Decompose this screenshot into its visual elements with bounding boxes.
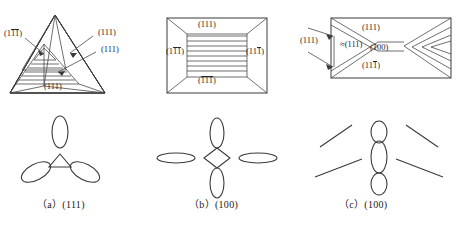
panel-b-diagram (155, 5, 305, 115)
caption-b: （b）(100) (189, 200, 238, 210)
pole-figure-c (300, 115, 459, 205)
panel-a-label-base-plane: (111) (44, 82, 62, 91)
panel-a-diagram (0, 0, 160, 110)
panel-b-label-bottom-plane: (111) (198, 76, 216, 85)
panel-b-label-left-plane: (111) (166, 47, 184, 56)
figure-crystal-morphologies: (111) (111) (111) (111) (111) (111) (111… (0, 0, 459, 227)
caption-a: （a）(111) (37, 200, 85, 210)
panel-c-label-center-plane: (100) (370, 43, 388, 52)
caption-c: （c）(100) (339, 200, 388, 210)
panel-c-label-approx-left-plane: ≈(111) (340, 40, 362, 49)
panel-c-label-bottom-plane: (111) (362, 61, 380, 70)
pole-figure-b (150, 115, 310, 205)
panel-a-label-left-plane: (111) (4, 29, 22, 38)
panel-b-label-right-plane: (111) (246, 47, 264, 56)
panel-c-label-outer-left-plane: (111) (300, 36, 318, 45)
panel-a-label-right-upper-plane: (111) (98, 28, 116, 37)
panel-b-label-top-plane: (111) (198, 20, 216, 29)
panel-a-label-right-lower-plane: (111) (101, 45, 119, 54)
pole-figure-a (0, 115, 160, 205)
panel-c-label-top-plane: (111) (362, 23, 380, 32)
